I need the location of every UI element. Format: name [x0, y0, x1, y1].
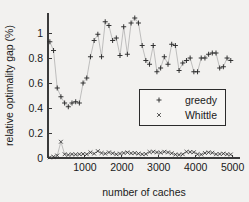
marker-plus-icon [118, 53, 123, 58]
marker-plus-icon [58, 94, 63, 99]
marker-plus-icon [162, 54, 167, 59]
marker-cross-icon [59, 140, 63, 144]
marker-plus-icon [180, 61, 185, 66]
scatter-plot: 00.20.40.60.8110002000300040005000number… [0, 0, 249, 202]
marker-plus-icon [140, 43, 145, 48]
x-tick-group: 10002000300040005000 [73, 155, 244, 174]
marker-plus-icon [151, 43, 156, 48]
marker-cross-icon [111, 151, 115, 155]
legend-label-greedy: greedy [185, 94, 218, 106]
marker-plus-icon [188, 56, 193, 61]
marker-plus-icon [129, 21, 134, 26]
legend: greedyWhittle [139, 89, 225, 125]
marker-plus-icon [73, 99, 78, 104]
marker-plus-icon [214, 51, 219, 56]
marker-plus-icon [221, 64, 226, 69]
marker-plus-icon [88, 54, 93, 59]
marker-plus-icon [99, 54, 104, 59]
marker-plus-icon [177, 68, 182, 73]
marker-plus-icon [166, 62, 171, 67]
marker-plus-icon [184, 58, 189, 63]
marker-plus-icon [51, 48, 56, 53]
x-tick-label: 3000 [147, 161, 171, 173]
marker-cross-icon [89, 150, 93, 154]
marker-plus-icon [132, 16, 137, 21]
marker-cross-icon [96, 149, 100, 153]
y-tick-label: 0.6 [28, 77, 43, 89]
marker-plus-icon [121, 24, 126, 29]
marker-plus-icon [173, 43, 178, 48]
marker-plus-icon [110, 38, 115, 43]
x-tick-label: 5000 [221, 161, 245, 173]
y-tick-label: 0.8 [28, 52, 43, 64]
marker-plus-icon [225, 56, 230, 61]
marker-plus-icon [195, 69, 200, 74]
marker-cross-icon [170, 151, 174, 155]
marker-plus-icon [95, 32, 100, 37]
x-tick-label: 4000 [184, 161, 208, 173]
marker-plus-icon [125, 52, 130, 57]
marker-plus-icon [114, 36, 119, 41]
y-axis-title: relative optimality gap (%) [3, 25, 15, 146]
figure-container: 00.20.40.60.8110002000300040005000number… [0, 0, 249, 202]
marker-plus-icon [77, 101, 82, 106]
marker-plus-icon [81, 81, 86, 86]
x-tick-label: 1000 [73, 161, 97, 173]
y-tick-label: 1 [37, 27, 43, 39]
marker-cross-icon [92, 152, 96, 156]
marker-cross-icon [107, 150, 111, 154]
marker-plus-icon [228, 58, 233, 63]
series-whittle [48, 140, 233, 159]
marker-plus-icon [92, 38, 97, 43]
x-tick-label: 2000 [110, 161, 134, 173]
marker-plus-icon [136, 21, 141, 26]
y-tick-label: 0.2 [28, 127, 43, 139]
x-axis-title: number of caches [102, 186, 185, 198]
marker-plus-icon [169, 42, 174, 47]
marker-cross-icon [55, 154, 59, 158]
axes-group [48, 13, 240, 158]
marker-plus-icon [217, 66, 222, 71]
y-tick-label: 0 [37, 152, 43, 164]
y-tick-label: 0.4 [28, 102, 43, 114]
marker-plus-icon [55, 86, 60, 91]
marker-plus-icon [84, 76, 89, 81]
legend-label-whittle: Whittle [185, 109, 217, 121]
